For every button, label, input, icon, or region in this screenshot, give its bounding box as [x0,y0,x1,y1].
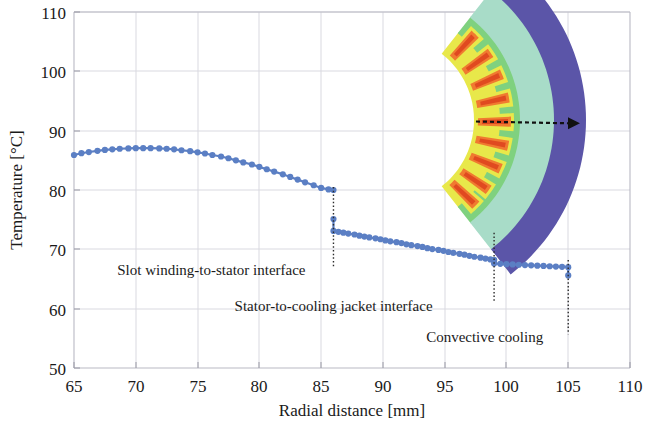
data-point-marker [202,150,208,156]
y-tick-label: 100 [41,63,67,82]
x-tick-label: 90 [375,377,392,396]
x-tick-label: 80 [251,377,268,396]
data-point-marker [510,261,516,267]
data-point-marker [102,147,108,153]
x-axis-tick-labels: 65 70 75 80 85 90 95 100 105 110 [66,377,643,396]
x-tick-label: 95 [437,377,454,396]
data-point-marker [450,250,456,256]
data-point-marker [318,185,324,191]
x-tick-label: 75 [190,377,207,396]
y-tick-label: 110 [41,4,66,23]
data-point-marker [516,262,522,268]
x-tick-label: 65 [66,377,83,396]
x-tick-label: 70 [128,377,145,396]
data-point-marker [503,261,509,267]
data-point-marker [125,145,131,151]
x-tick-label: 105 [555,377,581,396]
data-point-marker [522,262,528,268]
data-point-marker [86,149,92,155]
data-point-marker [194,149,200,155]
data-point-marker [109,146,115,152]
data-point-marker [311,182,317,188]
data-point-marker [264,166,270,172]
data-point-marker [256,164,262,170]
data-point-marker [547,263,553,269]
data-point-marker [225,155,231,161]
data-point-marker [559,264,565,270]
annotation-label-stator-to-cooling-jacket-interface: Stator-to-cooling jacket interface [235,298,433,314]
data-point-marker [148,145,154,151]
data-point-marker [71,152,77,158]
data-point-marker [140,145,146,151]
data-point-marker [528,262,534,268]
stator-sector-thermal-contour-inset [442,0,586,275]
data-point-marker [78,150,84,156]
y-axis-tick-labels: 110 100 90 80 70 60 50 [41,4,67,379]
annotation-label-slot-winding-to-stator-interface: Slot winding-to-stator interface [117,262,306,278]
data-point-marker [187,148,193,154]
data-point-marker [302,179,308,185]
x-tick-marks [74,362,630,368]
x-tick-label: 100 [493,377,519,396]
y-tick-label: 50 [49,360,66,379]
y-tick-label: 90 [49,123,66,142]
data-point-marker [218,153,224,159]
data-point-marker [287,174,293,180]
data-point-marker [240,159,246,165]
data-point-marker [295,177,301,183]
data-point-marker [408,242,414,248]
x-axis-title: Radial distance [mm] [279,401,425,420]
temperature-vs-radial-distance-chart: 110 100 90 80 70 60 50 65 70 75 80 85 90… [0,0,654,424]
data-point-marker [471,254,477,260]
data-point-marker [209,152,215,158]
data-point-marker [164,146,170,152]
data-point-marker [178,147,184,153]
x-tick-label: 110 [618,377,643,396]
data-point-marker [540,263,546,269]
data-point-marker [553,263,559,269]
data-point-marker [429,246,435,252]
y-tick-label: 60 [49,301,66,320]
data-point-marker [271,169,277,175]
data-point-marker [366,234,372,240]
data-point-marker [280,171,286,177]
data-point-marker [133,145,139,151]
data-point-marker [249,161,255,167]
y-tick-marks [74,12,80,368]
data-point-marker [171,146,177,152]
data-point-marker [94,148,100,154]
data-point-marker [497,261,503,267]
annotation-label-convective-cooling: Convective cooling [426,329,544,345]
figure-container: 110 100 90 80 70 60 50 65 70 75 80 85 90… [0,0,654,424]
data-point-marker [156,145,162,151]
y-axis-title: Temperature [°C] [7,130,26,249]
data-point-marker [233,157,239,163]
data-point-marker [534,263,540,269]
data-point-marker [387,238,393,244]
data-point-marker [345,231,351,237]
x-tick-label: 85 [313,377,330,396]
y-tick-label: 80 [49,182,66,201]
data-point-marker [117,146,123,152]
y-tick-label: 70 [49,241,66,260]
